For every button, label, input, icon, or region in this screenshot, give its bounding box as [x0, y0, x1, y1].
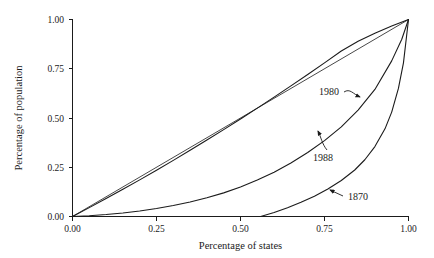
- y-tick-labels: 0.00 0.25 0.50 0.75 1.00: [47, 15, 64, 222]
- leader-arrow-1988: [318, 131, 327, 150]
- x-tick-marks: [73, 217, 409, 221]
- series-label-1980: 1980: [319, 86, 339, 97]
- series-label-1870: 1870: [348, 191, 368, 202]
- x-tick-labels: 0.00 0.25 0.50 0.75 1.00: [64, 224, 417, 234]
- series-path-1870: [261, 20, 409, 217]
- x-axis-title: Percentage of states: [199, 240, 282, 251]
- x-tick-label-3: 0.75: [316, 224, 333, 234]
- y-tick-label-2: 0.50: [47, 114, 64, 124]
- y-tick-label-3: 0.75: [47, 64, 64, 74]
- annotation-leaders: [318, 91, 360, 196]
- x-tick-label-0: 0.00: [64, 224, 81, 234]
- x-tick-label-4: 1.00: [400, 224, 417, 234]
- y-axis-title: Percentage of population: [13, 65, 24, 171]
- chart-canvas: 0.00 0.25 0.50 0.75 1.00 0.00 0.25 0.50 …: [0, 0, 434, 258]
- annotation-labels: 1980 1988 1870: [313, 86, 368, 202]
- x-tick-label-2: 0.50: [232, 224, 249, 234]
- y-tick-marks: [69, 20, 73, 217]
- y-tick-label-0: 0.00: [47, 212, 64, 222]
- x-tick-label-1: 0.25: [148, 224, 165, 234]
- leader-arrow-1870: [330, 190, 343, 196]
- leader-arrow-1980: [344, 91, 360, 97]
- series-paths: [73, 20, 409, 217]
- lorenz-curve-figure: 0.00 0.25 0.50 0.75 1.00 0.00 0.25 0.50 …: [0, 0, 434, 258]
- series-label-1988: 1988: [313, 152, 333, 163]
- y-tick-label-4: 1.00: [47, 15, 64, 25]
- y-tick-label-1: 0.25: [47, 163, 64, 173]
